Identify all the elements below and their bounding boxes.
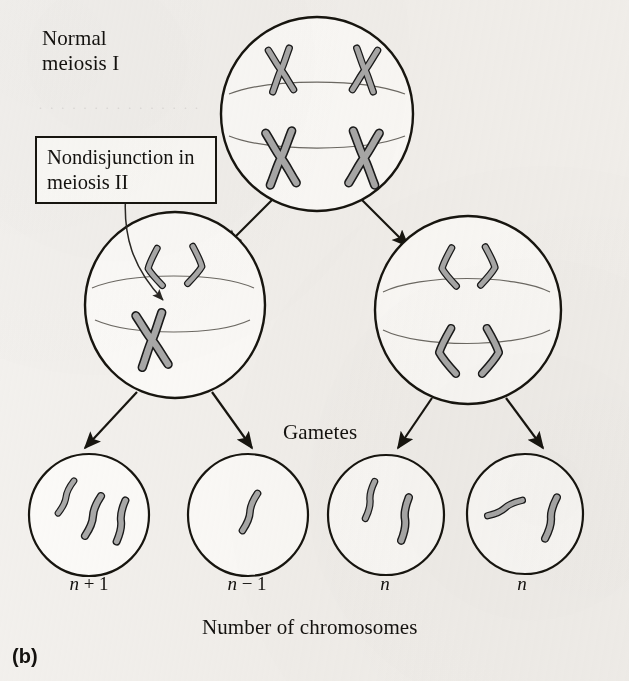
gamete-4 <box>467 454 583 574</box>
gamete-3 <box>328 455 444 575</box>
ploidy-label-gamete-1: n + 1 <box>29 573 149 595</box>
cell-membrane <box>328 455 444 575</box>
callout-nondisjunction-meiosis-ii: Nondisjunction in meiosis II <box>35 136 217 204</box>
label-normal-meiosis-i: Normal meiosis I <box>42 26 119 76</box>
caption-number-of-chromosomes: Number of chromosomes <box>202 615 418 640</box>
gamete-1 <box>29 454 149 576</box>
arrow-left-daughter-to-gamete-2 <box>212 392 252 448</box>
ploidy-label-gamete-4: n <box>462 573 582 595</box>
cell-membrane <box>221 17 413 211</box>
cell-parent <box>221 17 413 211</box>
ploidy-label-gamete-2: n − 1 <box>187 573 307 595</box>
panel-label: (b) <box>12 645 38 669</box>
arrow-right-daughter-to-gamete-3 <box>398 398 432 448</box>
cell-daughter-left <box>85 212 265 398</box>
cell-membrane <box>467 454 583 574</box>
cell-membrane <box>85 212 265 398</box>
gamete-2 <box>188 454 308 576</box>
figure-panel-b: · · · · · · · · · · · · · · · Normal mei… <box>0 0 629 681</box>
ploidy-label-gamete-3: n <box>325 573 445 595</box>
cell-membrane <box>375 216 561 404</box>
label-gametes: Gametes <box>283 420 357 445</box>
cell-daughter-right <box>375 216 561 404</box>
arrow-parent-to-right-daughter <box>362 200 408 246</box>
arrow-right-daughter-to-gamete-4 <box>506 398 543 448</box>
arrow-left-daughter-to-gamete-1 <box>85 392 137 448</box>
